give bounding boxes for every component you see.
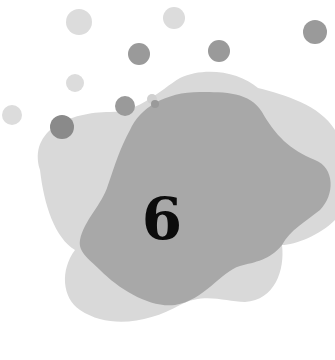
step-number: 6 (138, 184, 186, 254)
abstract-blob-illustration (0, 0, 335, 360)
